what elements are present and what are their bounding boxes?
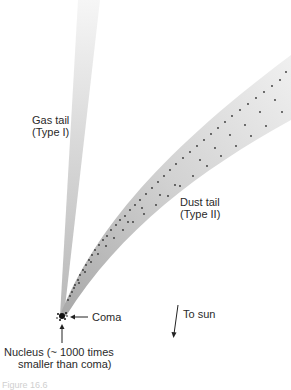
coma-label: Coma <box>92 311 121 323</box>
gas-tail-label-line1: Gas tail <box>32 114 69 126</box>
nucleus-label: Nucleus (~ 1000 times smaller than coma) <box>4 346 114 370</box>
nucleus-label-line2: smaller than coma) <box>4 358 114 370</box>
dust-tail-label: Dust tail (Type II) <box>180 196 220 220</box>
nucleus-arrow <box>60 324 65 343</box>
coma-arrow <box>70 315 88 320</box>
to-sun-label: To sun <box>183 308 215 320</box>
dust-tail-label-line2: (Type II) <box>180 208 220 220</box>
nucleus-label-line1: Nucleus (~ 1000 times <box>4 346 114 358</box>
gas-tail-label: Gas tail (Type I) <box>32 114 69 138</box>
gas-tail-label-line2: (Type I) <box>32 126 69 138</box>
coma <box>56 312 68 321</box>
figure-caption: Figure 16.6 <box>2 380 48 390</box>
to-sun-arrow <box>172 305 179 338</box>
dust-tail-label-line1: Dust tail <box>180 196 220 208</box>
